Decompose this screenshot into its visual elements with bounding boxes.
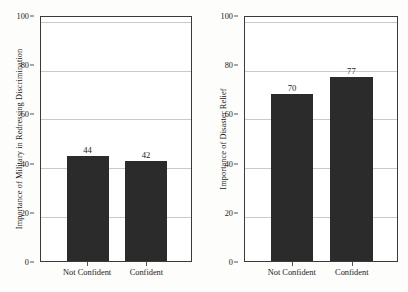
y-tick-mark [30,262,34,263]
x-axis-disaster-relief: Not Confident Confident [244,262,398,288]
y-tick-mark [234,16,238,17]
bar-confident [330,77,373,261]
y-tick-mark [30,65,34,66]
y-tick-label: 80 [225,61,233,70]
bar-value-label: 70 [288,83,297,93]
y-tick-label: 100 [17,12,29,21]
y-tick-mark [30,16,34,17]
y-tick-mark [234,65,238,66]
bar-series-disaster-relief: 70 77 [245,17,397,261]
y-tick-mark [234,114,238,115]
y-tick-label: 20 [225,208,233,217]
plot-area-military: 44 42 [40,16,192,262]
bar-series-military: 44 42 [41,17,191,261]
y-tick-label: 60 [21,110,29,119]
y-axis-ticks-military: 100 80 60 40 20 0 [12,16,34,262]
bar-not-confident [271,94,314,261]
y-tick-mark [30,114,34,115]
y-tick-mark [234,163,238,164]
y-tick-label: 0 [229,258,233,267]
y-tick-label: 0 [25,258,29,267]
y-tick-mark [234,212,238,213]
y-tick-label: 40 [21,159,29,168]
y-tick-label: 80 [21,61,29,70]
y-tick-mark [234,262,238,263]
x-tick-label-confident: Confident [130,268,164,277]
y-tick-label: 40 [225,159,233,168]
plot-area-disaster-relief: 70 77 [244,16,398,262]
y-axis-ticks-disaster-relief: 100 80 60 40 20 0 [216,16,238,262]
x-tick-mark [292,262,293,266]
y-tick-label: 20 [21,208,29,217]
chart-panel-disaster-relief: Importance of Disaster Relief 100 80 60 … [204,0,408,292]
chart-panel-military: Importance of Military in Redressing Dis… [0,0,204,292]
x-tick-mark [352,262,353,266]
y-tick-label: 100 [221,12,233,21]
x-tick-label-not-confident: Not Confident [63,268,111,277]
y-tick-mark [30,163,34,164]
bar-value-label: 44 [83,145,92,155]
x-axis-military: Not Confident Confident [40,262,192,288]
figure-two-bar-charts: Importance of Military in Redressing Dis… [0,0,408,292]
y-tick-mark [30,212,34,213]
bar-confident [125,161,167,261]
bar-value-label: 77 [347,66,356,76]
x-tick-mark [87,262,88,266]
y-tick-label: 60 [225,110,233,119]
bar-value-label: 42 [142,150,151,160]
x-tick-label-confident: Confident [335,268,369,277]
bar-not-confident [67,156,109,261]
x-tick-mark [146,262,147,266]
x-tick-label-not-confident: Not Confident [268,268,316,277]
